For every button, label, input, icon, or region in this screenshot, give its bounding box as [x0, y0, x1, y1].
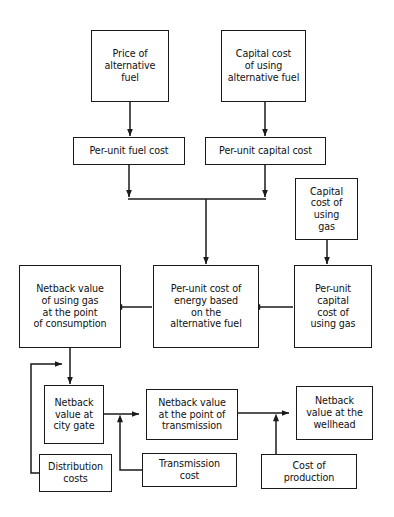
- node-netback-value-at-point-of-consumption: Netback value of using gas at the point …: [19, 265, 121, 348]
- node-capital-cost-of-using-gas: Capital cost of using gas: [295, 178, 358, 240]
- node-distribution-costs: Distribution costs: [39, 454, 112, 492]
- node-netback-value-at-wellhead: Netback value at the wellhead: [296, 386, 373, 440]
- node-capital-cost-of-using-alternative-fuel: Capital cost of using alternative fuel: [221, 30, 306, 102]
- node-price-of-alternative-fuel: Price of alternative fuel: [91, 30, 169, 102]
- node-per-unit-capital-cost-of-using-gas: Per-unit capital cost of using gas: [294, 265, 372, 348]
- node-transmission-cost: Transmission cost: [142, 453, 237, 487]
- node-per-unit-fuel-cost: Per-unit fuel cost: [73, 137, 185, 165]
- node-per-unit-cost-of-energy: Per-unit cost of energy based on the alt…: [153, 265, 259, 348]
- node-per-unit-capital-cost: Per-unit capital cost: [205, 137, 326, 165]
- node-cost-of-production: Cost of production: [261, 454, 357, 489]
- edge-transmissioncost-to-transmission: [120, 422, 142, 470]
- node-netback-value-at-point-of-transmission: Netback value at the point of transmissi…: [146, 389, 238, 440]
- flowchart-canvas: Price of alternative fuel Capital cost o…: [0, 0, 394, 517]
- node-netback-value-at-city-gate: Netback value at city gate: [44, 385, 104, 444]
